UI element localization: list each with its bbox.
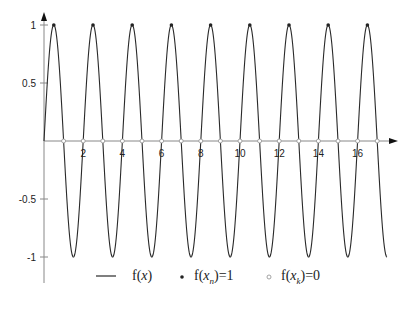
x-tick-label: 12 <box>274 148 286 159</box>
max-point <box>170 23 174 27</box>
x-tick-label: 6 <box>159 148 165 159</box>
y-tick-label: -1 <box>27 252 36 263</box>
zero-point <box>140 139 144 143</box>
zero-point <box>356 139 360 143</box>
zero-point <box>316 139 320 143</box>
zero-point <box>277 139 281 143</box>
y-tick-label: 0.5 <box>22 78 36 89</box>
zero-point <box>258 139 262 143</box>
max-point <box>326 23 330 27</box>
max-point <box>52 23 56 27</box>
plot-area: -1-0.50.51246810121416 <box>0 0 412 313</box>
zero-point <box>238 139 242 143</box>
zero-point <box>81 139 85 143</box>
zero-point <box>218 139 222 143</box>
zero-point <box>179 139 183 143</box>
legend-item-fx: f(x) <box>96 268 152 284</box>
zero-point <box>375 139 379 143</box>
max-point <box>91 23 95 27</box>
zero-point <box>160 139 164 143</box>
max-point <box>287 23 291 27</box>
legend-label: f(xk)=0 <box>281 268 320 286</box>
zero-point <box>297 139 301 143</box>
max-point <box>130 23 134 27</box>
max-point <box>248 23 252 27</box>
zero-point <box>199 139 203 143</box>
x-axis-arrow-icon <box>389 138 398 144</box>
x-tick-label: 4 <box>120 148 126 159</box>
max-point <box>209 23 213 27</box>
y-tick-label: -0.5 <box>19 194 37 205</box>
zero-point <box>120 139 124 143</box>
zero-point <box>336 139 340 143</box>
y-axis-arrow-icon <box>41 12 47 21</box>
filled-dot-icon <box>178 272 188 282</box>
x-tick-label: 14 <box>313 148 325 159</box>
x-tick-label: 10 <box>234 148 246 159</box>
legend-item-zeros: f(xk)=0 <box>265 268 320 286</box>
zero-point <box>101 139 105 143</box>
y-tick-label: 1 <box>30 20 36 31</box>
x-tick-label: 8 <box>198 148 204 159</box>
open-circle-icon <box>265 272 275 282</box>
line-icon <box>96 271 118 281</box>
x-tick-label: 16 <box>352 148 364 159</box>
legend-label: f(x) <box>132 268 152 284</box>
x-tick-label: 2 <box>80 148 86 159</box>
zero-point <box>62 139 66 143</box>
legend-label: f(xn)=1 <box>194 268 234 286</box>
max-point <box>366 23 370 27</box>
legend: f(x) f(xn)=1 f(xk)=0 <box>0 268 412 292</box>
legend-item-maxima: f(xn)=1 <box>178 268 234 286</box>
marker-points <box>52 23 379 143</box>
